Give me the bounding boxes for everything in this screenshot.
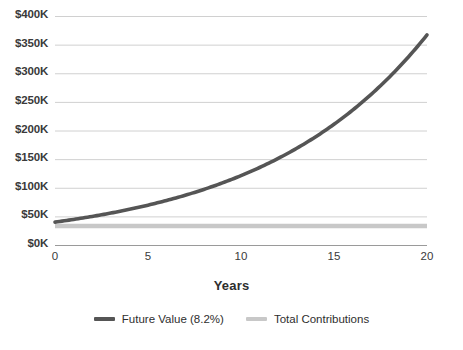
legend-item[interactable]: Future Value (8.2%) — [94, 313, 224, 325]
x-axis-title: Years — [0, 278, 463, 293]
y-axis-tick-label: $250K — [0, 94, 48, 106]
legend-swatch-icon — [94, 317, 115, 321]
chart-plot-area — [0, 0, 463, 350]
y-axis-tick-label: $50K — [0, 208, 48, 220]
legend-item[interactable]: Total Contributions — [246, 313, 369, 325]
x-axis-tick-label: 15 — [309, 250, 359, 262]
x-axis-tick-label: 0 — [30, 250, 80, 262]
legend-label: Total Contributions — [274, 313, 369, 325]
y-axis-tick-label: $400K — [0, 8, 48, 20]
x-axis-tick-label: 10 — [216, 250, 266, 262]
y-axis-tick-label: $150K — [0, 151, 48, 163]
series-line-future-value — [55, 35, 427, 222]
gridlines — [55, 17, 427, 246]
x-axis-tick-label: 20 — [402, 250, 452, 262]
legend-label: Future Value (8.2%) — [122, 313, 224, 325]
y-axis-tick-label: $300K — [0, 65, 48, 77]
y-axis-tick-label: $0K — [0, 237, 48, 249]
y-axis-tick-label: $100K — [0, 180, 48, 192]
legend-swatch-icon — [246, 317, 267, 321]
y-axis-tick-label: $200K — [0, 123, 48, 135]
chart-legend: Future Value (8.2%)Total Contributions — [0, 313, 463, 325]
y-axis-tick-label: $350K — [0, 37, 48, 49]
data-series — [55, 35, 427, 226]
x-axis-tick-label: 5 — [123, 250, 173, 262]
chart-container: $0K$50K$100K$150K$200K$250K$300K$350K$40… — [0, 0, 463, 350]
